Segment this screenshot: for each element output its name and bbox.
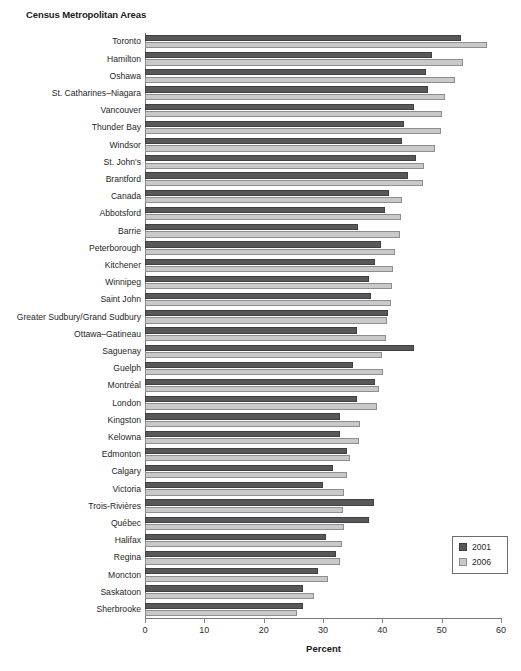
category-label: Edmonton [102,446,141,463]
x-tick-label: 60 [486,625,516,635]
bar-2001 [145,448,347,454]
bar-2006 [145,197,402,203]
chart-row: Halifax [145,532,501,549]
legend-entry-2006: 2006 [459,558,491,567]
chart-row: Victoria [145,480,501,497]
category-label: Regina [114,549,141,566]
bar-2001 [145,259,375,265]
category-label: Halifax [115,532,141,549]
bar-2006 [145,111,442,117]
category-label: Montréal [108,377,141,394]
chart-row: Hamilton [145,50,501,67]
bar-2001 [145,310,388,316]
chart-row: Kitchener [145,257,501,274]
bar-2001 [145,568,318,574]
bar-2001 [145,482,323,488]
category-label: Toronto [112,33,141,50]
bar-2001 [145,52,432,58]
chart-row: Ottawa–Gatineau [145,326,501,343]
category-label: Peterborough [89,239,141,256]
chart-row: Toronto [145,33,501,50]
bar-2006 [145,231,400,237]
bar-2006 [145,593,314,599]
bar-2001 [145,69,426,75]
bar-2001 [145,104,414,110]
x-tick-mark [204,619,205,623]
chart-row: Vancouver [145,102,501,119]
plot-area: TorontoHamiltonOshawaSt. Catharines–Niag… [145,33,501,618]
bar-2006 [145,266,393,272]
chart-title: Census Metropolitan Areas [26,9,146,20]
category-label: Saguenay [102,343,141,360]
chart-row: Windsor [145,136,501,153]
category-label: Ottawa–Gatineau [74,326,141,343]
legend-label-2001: 2001 [472,543,491,552]
bar-2006 [145,180,423,186]
legend-swatch-icon-2006 [459,558,467,566]
bar-2001 [145,327,357,333]
bar-2006 [145,283,392,289]
category-label: Barrie [118,222,141,239]
bar-2001 [145,224,358,230]
bar-2006 [145,489,344,495]
chart-row: St. John's [145,153,501,170]
chart-row: Regina [145,549,501,566]
bar-2001 [145,276,369,282]
bar-2001 [145,499,374,505]
chart-row: Trois-Rivières [145,498,501,515]
x-tick-label: 0 [130,625,160,635]
chart-row: Brantford [145,171,501,188]
category-label: Sherbrooke [97,601,141,618]
bar-2006 [145,507,343,513]
category-label: Québec [111,515,141,532]
chart-row: Saguenay [145,343,501,360]
bar-2006 [145,438,359,444]
bar-2006 [145,77,455,83]
x-tick-label: 10 [189,625,219,635]
bar-2006 [145,163,424,169]
chart-legend: 2001 2006 [452,536,508,574]
legend-label-2006: 2006 [472,558,491,567]
category-label: St. Catharines–Niagara [52,85,141,102]
bar-2006 [145,558,340,564]
bar-2006 [145,335,386,341]
category-label: Vancouver [101,102,141,119]
category-label: Oshawa [109,67,141,84]
chart-row: St. Catharines–Niagara [145,85,501,102]
bar-2006 [145,300,391,306]
bar-2006 [145,42,487,48]
bar-2001 [145,121,404,127]
bar-2001 [145,396,357,402]
bar-2006 [145,145,435,151]
category-label: Guelph [113,360,141,377]
category-label: Canada [111,188,141,205]
bar-2006 [145,576,328,582]
category-label: Windsor [109,136,141,153]
x-tick-label: 40 [367,625,397,635]
bar-2006 [145,59,463,65]
category-label: Trois-Rivières [88,498,141,515]
bar-2001 [145,86,428,92]
chart-row: Kelowna [145,429,501,446]
chart-row: Montréal [145,377,501,394]
legend-entry-2001: 2001 [459,543,491,552]
chart-row: Moncton [145,566,501,583]
category-label: Winnipeg [105,274,141,291]
chart-row: Oshawa [145,67,501,84]
category-label: Saskatoon [100,584,141,601]
bar-2006 [145,541,342,547]
category-label: Thunder Bay [92,119,141,136]
chart-row: Kingston [145,412,501,429]
bar-2006 [145,352,382,358]
bar-2006 [145,472,347,478]
legend-swatch-icon-2001 [459,543,467,551]
bar-2001 [145,172,408,178]
bar-2006 [145,317,387,323]
chart-row: Canada [145,188,501,205]
bar-2001 [145,241,381,247]
bar-2001 [145,379,375,385]
chart-row: Thunder Bay [145,119,501,136]
bar-2006 [145,214,401,220]
category-label: Victoria [112,480,141,497]
bar-2001 [145,413,340,419]
